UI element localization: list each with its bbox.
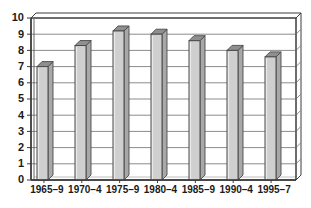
bar xyxy=(265,52,281,180)
y-axis-tick-label: 2 xyxy=(18,141,24,153)
bar-side-face xyxy=(124,26,129,180)
y-axis-tick-label: 9 xyxy=(18,28,24,40)
y-axis-tick-label: 6 xyxy=(18,76,24,88)
bar-side-face xyxy=(86,41,91,180)
bar-side-face xyxy=(200,36,205,180)
x-axis-tick-label: 1980–4 xyxy=(144,184,178,195)
chart-canvas: 0123456789101965–91970–41975–91980–41985… xyxy=(0,0,311,208)
x-axis-tick-label: 1965–9 xyxy=(30,184,64,195)
bar-side-face xyxy=(238,45,243,180)
x-axis-labels: 1965–91970–41975–91980–41985–91990–41995… xyxy=(30,184,291,195)
x-axis-tick-label: 1970–4 xyxy=(68,184,102,195)
bar-side-face xyxy=(162,29,167,180)
bar-chart: 0123456789101965–91970–41975–91980–41985… xyxy=(0,0,311,208)
plot-frame-top-plane xyxy=(31,13,301,18)
y-axis-tick-label: 4 xyxy=(18,109,25,121)
x-axis-tick-label: 1975–9 xyxy=(106,184,140,195)
bar xyxy=(227,45,243,180)
y-axis-tick-label: 8 xyxy=(18,44,24,56)
bar xyxy=(151,29,167,180)
bar xyxy=(37,62,53,180)
x-axis-tick-label: 1985–9 xyxy=(182,184,216,195)
y-axis-labels: 012345678910 xyxy=(12,11,25,185)
bar-side-face xyxy=(276,52,281,180)
y-axis-tick-label: 0 xyxy=(18,173,24,185)
y-axis-tick-label: 5 xyxy=(18,92,24,104)
bar-side-face xyxy=(48,62,53,180)
x-axis-tick-label: 1995–7 xyxy=(257,184,291,195)
bar xyxy=(189,36,205,180)
bar xyxy=(113,26,129,180)
x-axis-tick-label: 1990–4 xyxy=(220,184,254,195)
y-axis-tick-label: 10 xyxy=(12,11,24,23)
y-axis-tick-label: 1 xyxy=(18,157,24,169)
bar xyxy=(75,41,91,180)
y-axis-tick-label: 3 xyxy=(18,125,24,137)
y-axis-tick-label: 7 xyxy=(18,60,24,72)
